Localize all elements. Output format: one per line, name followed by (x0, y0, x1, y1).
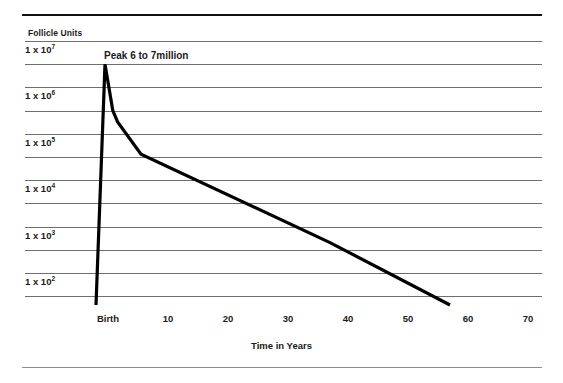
y-tick-mantissa: 1 x 10 (25, 276, 51, 287)
y-tick-mantissa: 1 x 10 (25, 230, 51, 241)
x-tick-label: 60 (463, 313, 474, 324)
y-tick-mantissa: 1 x 10 (25, 183, 51, 194)
x-tick-label: 40 (343, 313, 354, 324)
y-tick-label: 1 x 103 (25, 231, 55, 241)
x-axis-title: Time in Years (0, 340, 563, 351)
x-tick-label: 10 (163, 313, 174, 324)
y-tick-exponent: 4 (51, 182, 55, 189)
x-tick-label: 20 (223, 313, 234, 324)
y-tick-exponent: 6 (51, 89, 55, 96)
x-tick-label: 50 (403, 313, 414, 324)
y-tick-exponent: 3 (51, 228, 55, 235)
x-tick-label: 70 (523, 313, 534, 324)
x-tick-label: 30 (283, 313, 294, 324)
y-tick-mantissa: 1 x 10 (25, 44, 51, 55)
x-tick-label: Birth (97, 313, 119, 324)
y-tick-label: 1 x 104 (25, 184, 55, 194)
figure: Follicle Units 1 x 1071 x 1061 x 1051 x … (0, 0, 563, 383)
data-series-line (96, 64, 450, 305)
y-tick-exponent: 2 (51, 275, 55, 282)
y-tick-mantissa: 1 x 10 (25, 90, 51, 101)
y-tick-exponent: 7 (51, 43, 55, 50)
y-tick-mantissa: 1 x 10 (25, 137, 51, 148)
chart-svg (0, 0, 563, 383)
plot-area (0, 0, 563, 383)
y-tick-exponent: 5 (51, 136, 55, 143)
peak-annotation: Peak 6 to 7million (104, 50, 188, 61)
y-tick-label: 1 x 102 (25, 277, 55, 287)
y-tick-label: 1 x 105 (25, 138, 55, 148)
y-tick-label: 1 x 107 (25, 45, 55, 55)
y-tick-label: 1 x 106 (25, 91, 55, 101)
